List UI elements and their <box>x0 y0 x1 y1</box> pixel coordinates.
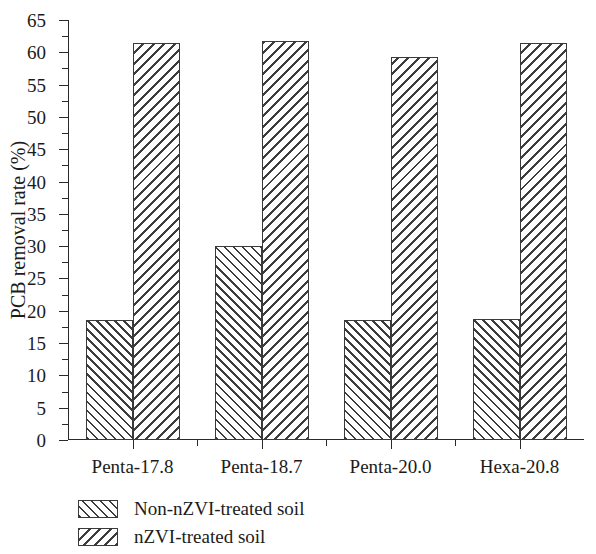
x-axis-label-Penta-17.8: Penta-17.8 <box>92 456 174 478</box>
legend-swatch-nzvi-icon <box>78 528 118 546</box>
y-minor-tick <box>62 327 68 328</box>
legend-label-nzvi: nZVI-treated soil <box>134 526 265 548</box>
y-tick-40: 40 <box>59 182 68 183</box>
y-tick-25: 25 <box>59 278 68 279</box>
x-minor-tick <box>326 440 327 446</box>
y-minor-tick <box>62 68 68 69</box>
y-tick-65: 65 <box>59 20 68 21</box>
y-tick-label-0: 0 <box>37 431 47 450</box>
y-tick-label-60: 60 <box>27 43 46 62</box>
x-axis-label-Penta-18.7: Penta-18.7 <box>221 456 303 478</box>
y-minor-tick <box>62 359 68 360</box>
legend-swatch-non-nzvi-icon <box>78 500 118 518</box>
y-tick-label-20: 20 <box>27 302 46 321</box>
y-tick-45: 45 <box>59 149 68 150</box>
y-minor-tick <box>62 36 68 37</box>
x-axis-label-Hexa-20.8: Hexa-20.8 <box>480 456 560 478</box>
y-tick-55: 55 <box>59 85 68 86</box>
y-tick-label-50: 50 <box>27 108 46 127</box>
y-minor-tick <box>62 165 68 166</box>
bar-Penta-20.0-nzvi <box>391 57 438 440</box>
y-tick-label-45: 45 <box>27 140 46 159</box>
bar-Hexa-20.8-nzvi <box>520 43 567 440</box>
x-minor-tick <box>455 440 456 446</box>
y-tick-label-15: 15 <box>27 334 46 353</box>
legend-label-non-nzvi: Non-nZVI-treated soil <box>134 498 304 520</box>
bar-Penta-18.7-non-nzvi <box>215 246 262 440</box>
chart-figure: 05101520253035404550556065PCB removal ra… <box>0 0 596 554</box>
x-tick-Penta-18.7 <box>262 440 263 449</box>
bar-Hexa-20.8-non-nzvi <box>473 319 520 440</box>
y-tick-30: 30 <box>59 246 68 247</box>
y-tick-50: 50 <box>59 117 68 118</box>
y-tick-0: 0 <box>59 440 68 441</box>
plot-area: 05101520253035404550556065PCB removal ra… <box>68 20 584 440</box>
x-tick-Hexa-20.8 <box>520 440 521 449</box>
chart-legend: Non-nZVI-treated soil nZVI-treated soil <box>78 498 304 548</box>
y-tick-60: 60 <box>59 52 68 53</box>
y-tick-label-10: 10 <box>27 366 46 385</box>
y-minor-tick <box>62 101 68 102</box>
bar-Penta-17.8-nzvi <box>133 43 180 440</box>
x-minor-tick <box>197 440 198 446</box>
y-minor-tick <box>62 295 68 296</box>
y-minor-tick <box>62 424 68 425</box>
y-tick-35: 35 <box>59 214 68 215</box>
y-tick-label-25: 25 <box>27 270 46 289</box>
y-tick-15: 15 <box>59 343 68 344</box>
y-minor-tick <box>62 133 68 134</box>
legend-item-nzvi: nZVI-treated soil <box>78 526 304 548</box>
y-tick-5: 5 <box>59 408 68 409</box>
y-minor-tick <box>62 198 68 199</box>
x-tick-Penta-17.8 <box>133 440 134 449</box>
y-tick-label-55: 55 <box>27 76 46 95</box>
y-axis-title: PCB removal rate (%) <box>7 141 30 319</box>
y-tick-20: 20 <box>59 311 68 312</box>
y-tick-10: 10 <box>59 375 68 376</box>
y-minor-tick <box>62 230 68 231</box>
bar-Penta-17.8-non-nzvi <box>86 320 133 440</box>
y-tick-label-65: 65 <box>27 11 46 30</box>
x-tick-Penta-20.0 <box>391 440 392 449</box>
y-tick-label-35: 35 <box>27 205 46 224</box>
y-tick-label-5: 5 <box>37 399 47 418</box>
y-minor-tick <box>62 392 68 393</box>
x-axis-label-Penta-20.0: Penta-20.0 <box>350 456 432 478</box>
y-minor-tick <box>62 262 68 263</box>
legend-item-non-nzvi: Non-nZVI-treated soil <box>78 498 304 520</box>
y-axis-line <box>68 20 69 440</box>
y-tick-label-40: 40 <box>27 173 46 192</box>
y-tick-label-30: 30 <box>27 237 46 256</box>
bar-Penta-20.0-non-nzvi <box>344 320 391 440</box>
bar-Penta-18.7-nzvi <box>262 41 309 440</box>
